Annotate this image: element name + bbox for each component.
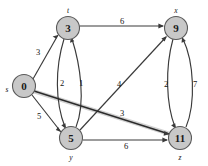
edge-s-to-t xyxy=(33,35,58,79)
edge-weight-x-z: 2 xyxy=(164,79,168,89)
node-y-value: 5 xyxy=(68,132,74,144)
graph-canvas: 3 5 6 2 1 4 3 6 2 7 0 s 3 t 9 x 5 y xyxy=(0,0,208,166)
edge-x-to-z xyxy=(168,39,176,129)
edge-weight-y-x: 4 xyxy=(117,79,122,89)
node-x[interactable]: 9 x xyxy=(165,6,188,40)
node-z-label: z xyxy=(178,153,182,162)
node-y-label: y xyxy=(68,153,73,162)
edge-weight-s-z: 3 xyxy=(120,108,124,118)
edge-z-to-x xyxy=(182,37,193,127)
node-t-value: 3 xyxy=(65,22,71,34)
edge-weight-y-t: 1 xyxy=(79,78,83,88)
node-x-value: 9 xyxy=(173,22,179,34)
node-t[interactable]: 3 t xyxy=(57,6,80,40)
node-s-label: s xyxy=(6,85,9,94)
edge-weight-y-z: 6 xyxy=(124,141,128,151)
node-s-value: 0 xyxy=(21,80,27,92)
edge-weight-t-x: 6 xyxy=(120,16,124,26)
edge-weight-z-x: 7 xyxy=(193,79,197,89)
node-t-label: t xyxy=(67,6,70,15)
graph-figure: 3 5 6 2 1 4 3 6 2 7 0 s 3 t 9 x 5 y xyxy=(0,0,208,166)
node-z-value: 11 xyxy=(175,132,185,144)
edge-weight-t-y: 2 xyxy=(60,78,64,88)
node-y[interactable]: 5 y xyxy=(60,127,83,162)
node-x-label: x xyxy=(173,6,178,15)
edge-weight-s-t: 3 xyxy=(36,47,40,57)
edge-weight-s-y: 5 xyxy=(37,111,41,121)
node-s[interactable]: 0 s xyxy=(6,75,36,98)
node-z[interactable]: 11 z xyxy=(169,127,192,162)
